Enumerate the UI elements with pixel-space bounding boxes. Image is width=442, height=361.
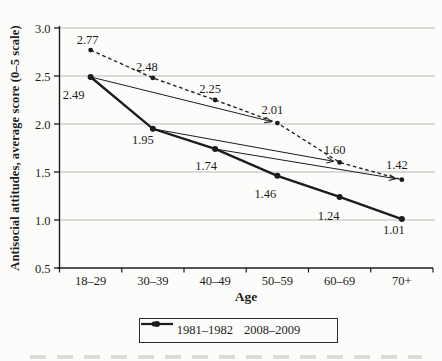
data-label: 1.24 bbox=[318, 209, 341, 223]
cohort-arrow bbox=[153, 129, 334, 162]
y-tick-label: 3.0 bbox=[35, 22, 51, 36]
data-point bbox=[88, 74, 94, 80]
y-tick-label: 2.5 bbox=[35, 70, 51, 84]
series-line-1981-1982 bbox=[91, 77, 402, 219]
cropped-caption-remnant bbox=[30, 355, 422, 359]
data-point bbox=[213, 98, 218, 103]
arrowhead-icon bbox=[264, 122, 271, 123]
data-label: 2.77 bbox=[77, 33, 99, 47]
x-tick-label: 60–69 bbox=[324, 274, 355, 288]
data-label: 2.48 bbox=[136, 60, 158, 74]
data-point bbox=[337, 160, 342, 165]
dashed-line-marker-icon bbox=[140, 319, 168, 329]
x-tick-label: 70+ bbox=[392, 274, 412, 288]
y-tick-label: 1.5 bbox=[35, 166, 51, 180]
data-point bbox=[88, 48, 93, 53]
data-point bbox=[212, 146, 218, 152]
legend-item-2008-2009: 2008–2009 bbox=[244, 323, 300, 338]
y-tick-label: 0.5 bbox=[35, 262, 51, 276]
x-axis-title: Age bbox=[59, 289, 433, 304]
legend-item-1981-1982: 1981–1982 bbox=[177, 323, 233, 338]
data-point bbox=[150, 76, 155, 81]
x-tick-label: 40–49 bbox=[200, 274, 231, 288]
arrowhead-icon bbox=[326, 161, 333, 163]
data-label: 1.01 bbox=[383, 223, 405, 237]
legend: 1981–1982 2008–2009 bbox=[139, 318, 338, 343]
data-label: 1.74 bbox=[195, 159, 218, 173]
data-label: 2.25 bbox=[199, 82, 221, 96]
data-point bbox=[337, 194, 343, 200]
legend-label-2008-2009: 2008–2009 bbox=[244, 323, 300, 338]
x-tick-label: 18–29 bbox=[75, 274, 106, 288]
legend-dashed-dot bbox=[152, 322, 157, 327]
arrowhead-icon bbox=[389, 179, 396, 181]
x-tick-label: 50–59 bbox=[262, 274, 293, 288]
legend-label-1981-1982: 1981–1982 bbox=[177, 323, 233, 338]
data-point bbox=[275, 121, 280, 126]
data-point bbox=[399, 216, 405, 222]
data-label: 1.46 bbox=[254, 187, 276, 201]
cohort-arrow bbox=[215, 149, 396, 179]
y-tick-label: 2.0 bbox=[35, 118, 51, 132]
y-axis-title: Antisocial attitudes, average score (0–5… bbox=[7, 12, 23, 284]
data-point bbox=[150, 126, 156, 132]
chart-svg: 3.02.52.01.51.00.518–2930–3940–4950–5960… bbox=[0, 0, 442, 361]
y-tick-label: 1.0 bbox=[35, 214, 51, 228]
data-label: 2.49 bbox=[63, 88, 85, 102]
data-label: 1.95 bbox=[132, 133, 154, 147]
x-tick-label: 30–39 bbox=[137, 274, 168, 288]
data-label: 2.01 bbox=[261, 103, 283, 117]
data-label: 1.60 bbox=[324, 143, 346, 157]
chart-figure: 3.02.52.01.51.00.518–2930–3940–4950–5960… bbox=[0, 0, 442, 361]
data-point bbox=[399, 177, 404, 182]
data-point bbox=[274, 173, 280, 179]
data-label: 1.42 bbox=[386, 158, 408, 172]
